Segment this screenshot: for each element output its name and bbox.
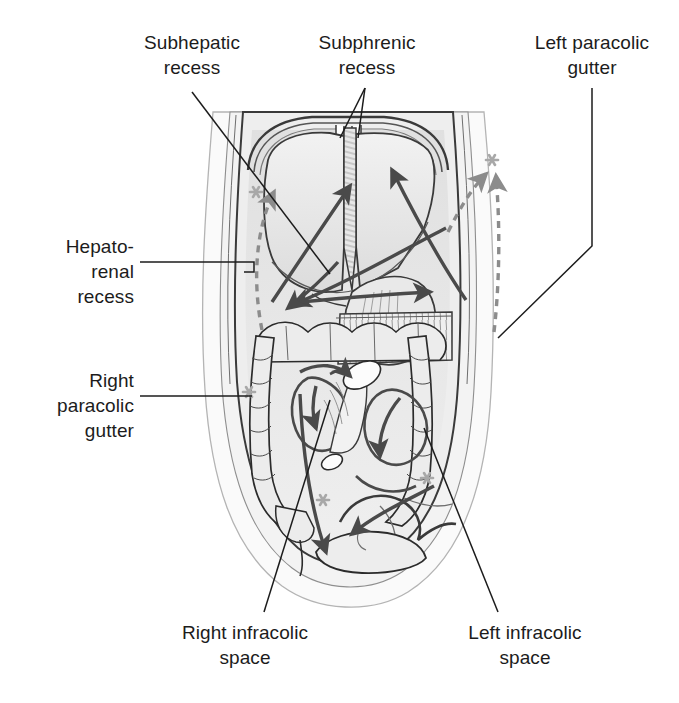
- label-hepatorenal-recess: Hepato- renal recess: [12, 234, 134, 309]
- label-subphrenic-recess: Subphrenic recess: [287, 30, 447, 80]
- label-right-infracolic-space: Right infracolic space: [160, 620, 330, 670]
- label-subhepatic-recess: Subhepatic recess: [112, 30, 272, 80]
- label-left-paracolic-gutter: Left paracolic gutter: [512, 30, 672, 80]
- label-left-infracolic-space: Left infracolic space: [440, 620, 610, 670]
- left-paracolic-ascending-arrow: [494, 176, 499, 332]
- anatomical-illustration: [0, 0, 679, 703]
- leader-left-paracolic: [498, 88, 592, 338]
- label-right-paracolic-gutter: Right paracolic gutter: [12, 368, 134, 443]
- figure-page: Subhepatic recess Subphrenic recess Left…: [0, 0, 679, 703]
